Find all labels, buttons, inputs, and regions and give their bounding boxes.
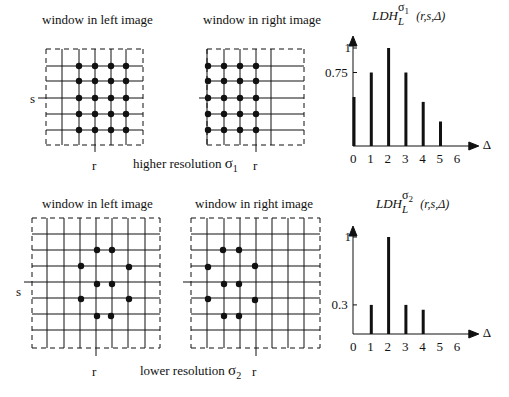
bottom-right-window-title: window in right image: [195, 196, 313, 212]
y-tick-label: 1: [345, 229, 352, 245]
title-args: (r,s,Δ): [416, 9, 445, 23]
top-caption: higher resolution σ1: [133, 155, 238, 174]
sigma-subscript: 1: [233, 163, 238, 174]
x-tick-label: 6: [454, 151, 461, 167]
top-s-label: s: [30, 91, 35, 107]
top-chart-title: LDHσ1L(r,s,Δ): [372, 8, 445, 24]
x-tick-label: 1: [367, 151, 374, 167]
top-right-window-title: window in right image: [203, 12, 321, 28]
bottom-caption-text: lower resolution: [140, 363, 225, 378]
title-sub: L: [398, 15, 404, 27]
title-sup: σ2: [402, 188, 413, 204]
x-tick-label: 1: [367, 339, 374, 355]
y-tick-label: 0.3: [332, 297, 348, 313]
title-sub: L: [402, 203, 408, 215]
x-tick-label: 3: [402, 151, 409, 167]
x-tick-label: 2: [385, 151, 392, 167]
bottom-caption: lower resolution σ2: [140, 362, 241, 381]
y-tick-label: 1: [345, 40, 352, 56]
x-tick-label: 2: [385, 339, 392, 355]
x-tick-label: 6: [454, 339, 461, 355]
title-main: LDH: [376, 196, 402, 211]
x-axis-label: Δ: [483, 137, 491, 153]
bottom-left-window-title: window in left image: [42, 196, 153, 212]
title-args: (r,s,Δ): [420, 197, 449, 211]
x-tick-label: 0: [350, 339, 357, 355]
bottom-left-r-label: r: [92, 364, 96, 380]
x-tick-label: 0: [350, 151, 357, 167]
x-axis-label: Δ: [483, 325, 491, 341]
title-main: LDH: [372, 8, 398, 23]
sigma-symbol: σ: [228, 362, 236, 378]
top-right-r-label: r: [253, 158, 257, 174]
top-left-r-label: r: [92, 158, 96, 174]
x-tick-label: 5: [437, 151, 444, 167]
x-tick-label: 4: [419, 339, 426, 355]
top-left-window-title: window in left image: [42, 12, 153, 28]
bottom-chart-title: LDHσ2L(r,s,Δ): [376, 196, 449, 212]
bottom-s-label: s: [16, 284, 21, 300]
y-tick-label: 0.75: [325, 65, 348, 81]
x-tick-label: 3: [402, 339, 409, 355]
bottom-right-r-label: r: [252, 364, 256, 380]
top-caption-text: higher resolution: [133, 156, 221, 171]
sigma-subscript: 2: [236, 370, 241, 381]
sigma-symbol: σ: [225, 155, 233, 171]
title-sup: σ1: [398, 0, 409, 16]
x-tick-label: 5: [437, 339, 444, 355]
x-tick-label: 4: [419, 151, 426, 167]
